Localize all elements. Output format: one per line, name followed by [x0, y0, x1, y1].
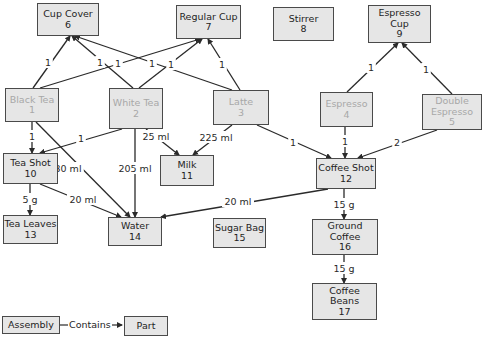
edge-quantity-label: 1 — [290, 137, 296, 148]
node-id: 6 — [65, 20, 71, 31]
node-label: Cup Cover — [43, 9, 93, 20]
edge-quantity-label: 1 — [168, 59, 174, 70]
edge-quantity-label: 1 — [342, 136, 348, 147]
node-regular-cup: Regular Cup7 — [176, 5, 241, 39]
node-label: Tea Shot — [10, 158, 50, 169]
edge-quantity-label: 2 — [394, 137, 400, 148]
node-id: 3 — [238, 108, 244, 119]
node-latte: Latte3 — [213, 90, 269, 125]
node-sugar-bag: Sugar Bag15 — [213, 218, 266, 248]
node-stirrer: Stirrer8 — [273, 7, 334, 41]
edge-quantity-label: 1 — [219, 59, 225, 70]
edge-quantity-label: 15 g — [333, 263, 354, 274]
edge-quantity-label: 1 — [97, 57, 103, 68]
edge-quantity-label: 20 ml — [69, 194, 96, 205]
edge-quantity-label: 15 g — [333, 199, 354, 210]
node-tea-shot: Tea Shot10 — [3, 153, 58, 184]
legend-part-label: Part — [137, 321, 156, 332]
node-espresso-cup: Espresso Cup9 — [368, 5, 431, 43]
node-ground-coffee: Ground Coffee16 — [312, 219, 378, 255]
legend-part-box: Part — [124, 316, 168, 336]
node-id: 16 — [339, 242, 351, 253]
node-id: 4 — [343, 110, 349, 121]
edge-layer: 111111111230 ml1205 ml25 ml225 ml1125 g2… — [0, 0, 482, 342]
node-id: 8 — [300, 24, 306, 35]
edge-quantity-label: 1 — [115, 58, 121, 69]
node-coffee-beans: Coffee Beans17 — [312, 283, 377, 320]
node-label: Coffee Beans — [329, 286, 360, 307]
node-id: 15 — [233, 233, 245, 244]
legend-assembly-label: Assembly — [8, 320, 54, 331]
edge-quantity-label: 205 ml — [118, 163, 151, 174]
node-label: Milk — [178, 160, 197, 171]
legend-assembly-box: Assembly — [2, 316, 60, 334]
node-label: Latte — [229, 97, 253, 108]
node-label: Ground Coffee — [328, 221, 363, 242]
bom-diagram: 111111111230 ml1205 ml25 ml225 ml1125 g2… — [0, 0, 482, 342]
node-id: 9 — [396, 29, 402, 40]
edge-quantity-label: 1 — [29, 131, 35, 142]
node-id: 7 — [205, 22, 211, 33]
edge-quantity-label: 225 ml — [199, 132, 232, 143]
node-tea-leaves: Tea Leaves13 — [3, 215, 58, 244]
node-label: Coffee Shot — [318, 163, 373, 174]
edge-quantity-label: 1 — [78, 133, 84, 144]
legend-relation-label: Contains — [68, 319, 112, 330]
node-coffee-shot: Coffee Shot12 — [316, 158, 376, 189]
node-double-espresso: Double Espresso5 — [422, 94, 482, 130]
node-espresso: Espresso4 — [320, 92, 373, 127]
node-id: 13 — [24, 230, 36, 241]
node-label: Espresso — [325, 99, 367, 110]
node-water: Water14 — [108, 217, 162, 246]
node-id: 2 — [133, 109, 139, 120]
node-id: 1 — [29, 105, 35, 116]
node-id: 11 — [181, 171, 193, 182]
node-milk: Milk11 — [160, 155, 214, 186]
edge-quantity-label: 1 — [423, 64, 429, 75]
edge-quantity-label: 25 ml — [142, 131, 169, 142]
node-label: Espresso Cup — [378, 8, 420, 29]
node-label: White Tea — [113, 98, 160, 109]
edge-quantity-label: 1 — [149, 58, 155, 69]
node-id: 5 — [449, 117, 455, 128]
node-id: 10 — [24, 169, 36, 180]
edge-quantity-label: 1 — [45, 57, 51, 68]
node-black-tea: Black Tea1 — [5, 88, 59, 122]
edge-quantity-label: 20 ml — [224, 196, 251, 207]
node-label: Water — [121, 221, 149, 232]
node-label: Double Espresso — [431, 96, 473, 117]
node-id: 14 — [129, 232, 141, 243]
node-cup-cover: Cup Cover6 — [37, 3, 99, 36]
node-label: Tea Leaves — [4, 219, 56, 230]
edge-quantity-label: 5 g — [22, 194, 37, 205]
node-id: 17 — [338, 307, 350, 318]
node-white-tea: White Tea2 — [109, 88, 163, 129]
edge-quantity-label: 1 — [368, 62, 374, 73]
node-id: 12 — [340, 174, 352, 185]
